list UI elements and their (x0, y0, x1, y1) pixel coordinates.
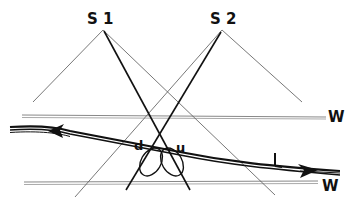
s1-sight-line (104, 31, 190, 190)
s1-thin-rays (33, 30, 275, 195)
wall-bottom (24, 181, 318, 185)
s2-sight-line (126, 32, 221, 190)
label-w-top: W (328, 108, 345, 126)
label-u: u (176, 140, 185, 155)
label-s2: S 2 (210, 10, 236, 28)
label-s1: S 1 (87, 10, 113, 28)
label-w-bottom: W (322, 177, 339, 195)
diagram-canvas: S 1 S 2 W W d u L (0, 0, 356, 207)
s2-thin-rays (75, 30, 302, 197)
arrow-left-icon (48, 124, 64, 138)
wall-top (22, 115, 326, 119)
label-d: d (134, 138, 143, 153)
